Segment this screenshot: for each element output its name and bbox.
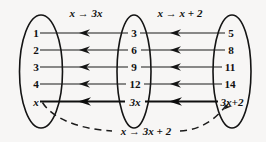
rule-label-composite: x → 3x + 2 [120,125,172,137]
domain-element-x: x [32,96,39,108]
codomain-element-14: 14 [224,78,236,90]
domain-set-ellipse [20,15,63,128]
diagram-canvas: 1 2 3 4 x 3 6 9 12 3x 5 8 11 14 3x+2 x →… [0,0,266,142]
mapping-diagram-figure: 1 2 3 4 x 3 6 9 12 3x 5 8 11 14 3x+2 x →… [0,0,266,142]
domain-element-2: 2 [33,44,39,56]
codomain-element-8: 8 [228,44,234,56]
domain-element-3: 3 [33,61,39,73]
codomain-element-11: 11 [225,61,236,73]
codomain-element-3x2: 3x+2 [219,96,244,108]
intermediate-element-3: 3 [131,27,137,39]
domain-element-1: 1 [33,27,39,39]
rule-label-first: x → 3x [69,7,104,19]
intermediate-element-3x: 3x [128,96,141,108]
intermediate-element-6: 6 [131,44,137,56]
intermediate-element-9: 9 [131,61,137,73]
rule-label-second: x → x + 2 [157,7,203,19]
intermediate-element-12: 12 [129,78,141,90]
codomain-element-5: 5 [228,27,234,39]
domain-element-4: 4 [33,78,39,90]
composite-dashed-curve-left [43,103,113,132]
